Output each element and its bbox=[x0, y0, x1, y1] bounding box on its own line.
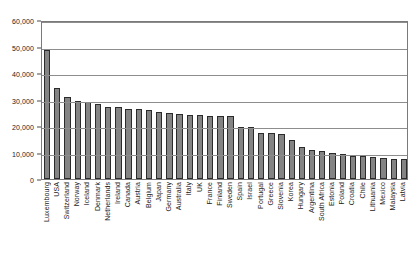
bar bbox=[299, 147, 305, 179]
bar bbox=[227, 116, 233, 179]
x-tick-label: Ireland bbox=[114, 182, 121, 204]
x-tick-label: Denmark bbox=[94, 182, 101, 211]
gridline bbox=[42, 22, 407, 23]
bar bbox=[125, 109, 131, 179]
x-tick-label: Belgium bbox=[145, 182, 152, 208]
x-tick-label: Austria bbox=[134, 182, 141, 205]
x-tick-label: Mexico bbox=[379, 182, 386, 205]
x-tick-label: Israel bbox=[246, 182, 253, 200]
y-tick-label: 40,000 bbox=[12, 71, 34, 78]
bar-chart: 010,00020,00030,00040,00050,00060,000 Lu… bbox=[0, 0, 420, 257]
x-tick-label: Iceland bbox=[83, 182, 90, 205]
bar bbox=[85, 102, 91, 179]
bar bbox=[360, 156, 366, 179]
bar bbox=[207, 116, 213, 179]
bar bbox=[64, 97, 70, 179]
y-tick-label: 10,000 bbox=[12, 150, 34, 157]
bar bbox=[146, 110, 152, 179]
x-tick-label: Sweden bbox=[226, 182, 233, 208]
x-tick-label: Japan bbox=[155, 182, 162, 202]
bar bbox=[370, 157, 376, 179]
y-tick-label: 30,000 bbox=[12, 97, 34, 104]
y-tick-label: 20,000 bbox=[12, 124, 34, 131]
bar bbox=[75, 101, 81, 179]
x-axis: LuxembourgUSASwitzerlandNorwayIcelandDen… bbox=[41, 182, 408, 256]
x-tick-label: Finland bbox=[216, 182, 223, 206]
x-tick-label: Chile bbox=[359, 182, 366, 198]
x-tick-label: Italy bbox=[185, 182, 192, 195]
gridline bbox=[42, 102, 407, 103]
bar bbox=[136, 109, 142, 179]
x-tick-label: Slovenia bbox=[277, 182, 284, 210]
bar bbox=[380, 158, 386, 179]
gridline bbox=[42, 75, 407, 76]
bar bbox=[248, 127, 254, 179]
x-tick-label: USA bbox=[53, 182, 60, 197]
bar bbox=[329, 153, 335, 179]
bar bbox=[197, 115, 203, 179]
x-tick-label: Switzerland bbox=[63, 182, 70, 219]
x-tick-label: France bbox=[206, 182, 213, 204]
y-tick-label: 50,000 bbox=[12, 44, 34, 51]
bar bbox=[95, 104, 101, 179]
bar bbox=[105, 107, 111, 179]
bar bbox=[238, 127, 244, 179]
x-tick-label: UK bbox=[196, 182, 203, 192]
x-tick-label: Norway bbox=[73, 182, 80, 206]
plot-area bbox=[41, 21, 408, 180]
x-tick-label: Australia bbox=[175, 182, 182, 210]
gridline bbox=[42, 49, 407, 50]
bar bbox=[166, 113, 172, 179]
bar bbox=[156, 112, 162, 179]
x-tick-label: Canada bbox=[124, 182, 131, 207]
x-tick-label: Latvia bbox=[399, 182, 406, 201]
x-tick-label: South Africa bbox=[318, 182, 325, 221]
gridline bbox=[42, 155, 407, 156]
bar bbox=[115, 107, 121, 179]
x-tick-label: Argentina bbox=[308, 182, 315, 213]
y-tick-label: 60,000 bbox=[12, 18, 34, 25]
bar bbox=[340, 154, 346, 179]
x-tick-label: Korea bbox=[287, 182, 294, 201]
x-tick-label: Greece bbox=[267, 182, 274, 206]
x-tick-label: Portugal bbox=[257, 182, 264, 209]
bar bbox=[268, 133, 274, 179]
bar bbox=[391, 159, 397, 179]
x-tick-label: Luxembourg bbox=[43, 182, 50, 222]
y-tick-label: 0 bbox=[30, 177, 34, 184]
x-tick-label: Hungary bbox=[297, 182, 304, 209]
bar bbox=[278, 134, 284, 179]
bar bbox=[176, 114, 182, 179]
bar bbox=[350, 156, 356, 179]
x-tick-label: Netherlands bbox=[104, 182, 111, 221]
bar bbox=[44, 50, 50, 179]
x-tick-label: Lithuania bbox=[369, 182, 376, 211]
x-tick-label: Croatia bbox=[348, 182, 355, 205]
x-tick-label: Germany bbox=[165, 182, 172, 212]
x-tick-label: Estonia bbox=[328, 182, 335, 206]
x-tick-label: Malaysia bbox=[389, 182, 396, 210]
gridline bbox=[42, 128, 407, 129]
bar bbox=[217, 116, 223, 179]
x-tick-label: Poland bbox=[338, 182, 345, 204]
y-axis: 010,00020,00030,00040,00050,00060,000 bbox=[0, 0, 41, 257]
bar bbox=[401, 159, 407, 179]
bar bbox=[258, 133, 264, 179]
bar bbox=[289, 140, 295, 179]
bar bbox=[187, 115, 193, 179]
x-tick-label: Spain bbox=[236, 182, 243, 200]
